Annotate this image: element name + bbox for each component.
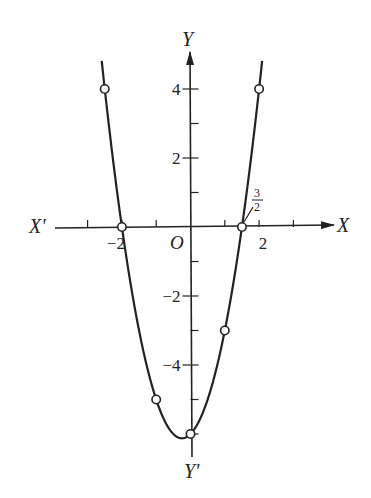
data-point (101, 85, 109, 93)
fraction-denominator: 2 (254, 200, 260, 214)
x-axis (55, 225, 334, 228)
x-axis-label: X (336, 214, 350, 236)
data-point (238, 223, 246, 231)
axis-labels: Y Y' X X' O (28, 28, 350, 482)
y-axis (190, 52, 192, 457)
y-ticks: 42−2−4 (162, 80, 198, 434)
origin-label: O (170, 232, 184, 253)
x-tick-label: 2 (259, 234, 268, 253)
y-tick-label: −2 (162, 287, 180, 306)
x-axis-neg-label: X' (28, 215, 46, 237)
y-tick-label: 4 (172, 80, 181, 99)
data-point (255, 85, 263, 93)
data-point (152, 395, 160, 403)
fraction-numerator: 3 (254, 186, 260, 200)
data-point (221, 326, 229, 334)
y-axis-neg-label: Y' (184, 460, 200, 482)
y-tick-label: −4 (162, 356, 181, 375)
marked-points (101, 85, 264, 438)
axes: −22 42−2−4 (55, 52, 334, 457)
data-point (118, 223, 126, 231)
y-axis-label: Y (182, 28, 195, 50)
y-tick-label: 2 (172, 149, 181, 168)
parabola-graph: −22 42−2−4 Y Y' X X' O 3 2 (0, 0, 371, 498)
data-point (186, 430, 194, 438)
